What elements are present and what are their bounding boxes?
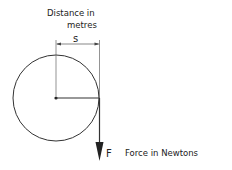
force-symbol: F xyxy=(106,148,112,159)
distance-symbol: s xyxy=(73,33,78,44)
distance-label-line2: metres xyxy=(67,20,97,30)
force-description: Force in Newtons xyxy=(125,148,199,158)
dimension-arrow-right-icon xyxy=(95,43,100,46)
distance-label-line1: Distance in xyxy=(47,8,95,18)
force-arrow-icon xyxy=(96,142,104,161)
torque-diagram: Distance in metres s F Force in Newtons xyxy=(0,0,232,170)
dimension-arrow-left-icon xyxy=(56,43,61,46)
